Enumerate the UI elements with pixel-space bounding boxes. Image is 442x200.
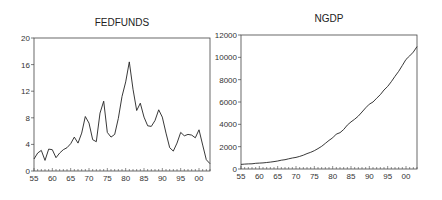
ngdp-plot-frame <box>241 35 417 169</box>
y-tick-label: 4 <box>26 140 31 149</box>
y-tick-label: 12000 <box>215 31 238 40</box>
y-tick-label: 4000 <box>219 120 237 129</box>
x-tick-label: 60 <box>255 172 264 181</box>
fedfunds-x-axis: 55606570758085909500 <box>30 168 210 183</box>
x-tick-label: 95 <box>383 172 392 181</box>
x-tick-label: 80 <box>328 172 337 181</box>
fedfunds-chart: FEDFUNDS 048121620 55606570758085909500 <box>21 17 210 183</box>
y-tick-label: 8 <box>26 114 31 123</box>
x-tick-label: 90 <box>365 172 374 181</box>
y-tick-label: 6000 <box>219 98 237 107</box>
x-tick-label: 90 <box>158 174 167 183</box>
ngdp-chart: NGDP 020004000600080001000012000 5560657… <box>215 13 417 181</box>
x-tick-label: 65 <box>66 174 75 183</box>
ngdp-y-axis: 020004000600080001000012000 <box>215 31 241 174</box>
x-tick-label: 95 <box>176 174 185 183</box>
x-tick-label: 70 <box>292 172 301 181</box>
x-tick-label: 75 <box>103 174 112 183</box>
x-tick-label: 55 <box>237 172 246 181</box>
fedfunds-y-axis: 048121620 <box>21 34 34 176</box>
y-tick-label: 8000 <box>219 76 237 85</box>
ngdp-title: NGDP <box>315 13 344 24</box>
y-tick-label: 16 <box>21 61 30 70</box>
ngdp-x-axis: 55606570758085909500 <box>237 166 417 181</box>
ngdp-line <box>241 47 417 165</box>
y-tick-label: 12 <box>21 87 30 96</box>
fedfunds-line <box>34 62 210 164</box>
x-tick-label: 75 <box>310 172 319 181</box>
x-tick-label: 70 <box>85 174 94 183</box>
x-tick-label: 60 <box>48 174 57 183</box>
x-tick-label: 00 <box>402 172 411 181</box>
x-tick-label: 80 <box>121 174 130 183</box>
fedfunds-title: FEDFUNDS <box>95 17 150 28</box>
y-tick-label: 10000 <box>215 53 238 62</box>
charts-canvas: FEDFUNDS 048121620 55606570758085909500 … <box>0 0 442 200</box>
x-tick-label: 00 <box>195 174 204 183</box>
x-tick-label: 55 <box>30 174 39 183</box>
y-tick-label: 20 <box>21 34 30 43</box>
x-tick-label: 65 <box>273 172 282 181</box>
y-tick-label: 2000 <box>219 143 237 152</box>
x-tick-label: 85 <box>347 172 356 181</box>
fedfunds-plot-frame <box>34 38 210 171</box>
x-tick-label: 85 <box>140 174 149 183</box>
